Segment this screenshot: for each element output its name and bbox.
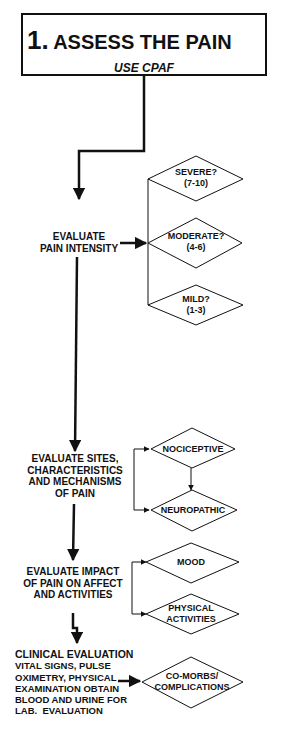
label-line: OF PAIN — [20, 488, 130, 500]
connector-impact-to-clinical — [73, 613, 77, 643]
option-severe: SEVERE? (7-10) — [160, 167, 232, 189]
connector-sites-to-impact — [73, 504, 74, 560]
title-heading: 1. ASSESS THE PAIN — [23, 25, 265, 56]
label-line: CHARACTERISTICS — [20, 465, 130, 477]
title-text: ASSESS THE PAIN — [53, 31, 232, 53]
option-comorbs: CO-MORBS/ COMPLICATIONS — [150, 671, 234, 693]
option-nociceptive: NOCICEPTIVE — [155, 444, 231, 455]
connector-intensity-to-sites — [75, 257, 77, 451]
option-line: SEVERE? — [160, 167, 232, 178]
option-line: (7-10) — [160, 178, 232, 189]
step-evaluate-intensity: EVALUATE PAIN INTENSITY — [30, 231, 128, 254]
flowchart-connectors — [0, 0, 281, 729]
label-line: BLOOD AND URINE FOR — [15, 694, 145, 705]
option-neuropathic: NEUROPATHIC — [153, 505, 233, 516]
option-mild: MILD? (1-3) — [160, 294, 232, 316]
option-line: (4-6) — [158, 242, 234, 253]
label-line: AND ACTIVITIES — [16, 589, 130, 601]
option-line: NOCICEPTIVE — [155, 444, 231, 455]
option-line: COMPLICATIONS — [150, 682, 234, 693]
label-line: LAB. EVALUATION — [15, 705, 145, 716]
option-line: CO-MORBS/ — [150, 671, 234, 682]
option-line: (1-3) — [160, 305, 232, 316]
label-line: OXIMETRY, PHYSICAL — [15, 672, 145, 683]
step-clinical-evaluation: CLINICAL EVALUATION VITAL SIGNS, PULSE O… — [15, 648, 145, 716]
bracket-sites-top — [134, 449, 149, 483]
bracket-impact-bottom — [132, 585, 146, 614]
option-line: ACTIVITIES — [156, 614, 226, 625]
label-line: OF PAIN ON AFFECT — [16, 578, 130, 590]
step-number: 1. — [27, 25, 49, 55]
step-evaluate-impact: EVALUATE IMPACT OF PAIN ON AFFECT AND AC… — [16, 566, 130, 601]
label-line: CLINICAL EVALUATION — [15, 648, 145, 660]
label-line: EXAMINATION OBTAIN — [15, 683, 145, 694]
connector-title-to-intensity — [79, 76, 144, 199]
label-line: PAIN INTENSITY — [30, 243, 128, 255]
label-line: EVALUATE SITES, — [20, 453, 130, 465]
option-mood: MOOD — [158, 557, 224, 568]
title-box: 1. ASSESS THE PAIN USE CPAF — [21, 13, 267, 76]
title-subtitle: USE CPAF — [23, 61, 265, 75]
step-evaluate-sites: EVALUATE SITES, CHARACTERISTICS AND MECH… — [20, 453, 130, 499]
option-physical-activities: PHYSICAL ACTIVITIES — [156, 603, 226, 625]
label-line: EVALUATE — [30, 231, 128, 243]
option-line: MOOD — [158, 557, 224, 568]
label-line: AND MECHANISMS — [20, 476, 130, 488]
option-line: PHYSICAL — [156, 603, 226, 614]
option-line: NEUROPATHIC — [153, 505, 233, 516]
label-line: EVALUATE IMPACT — [16, 566, 130, 578]
option-line: MILD? — [160, 294, 232, 305]
bracket-sites-bottom — [134, 483, 149, 510]
option-moderate: MODERATE? (4-6) — [158, 231, 234, 253]
label-line: VITAL SIGNS, PULSE — [15, 660, 145, 671]
option-line: MODERATE? — [158, 231, 234, 242]
bracket-impact-top — [132, 562, 146, 585]
